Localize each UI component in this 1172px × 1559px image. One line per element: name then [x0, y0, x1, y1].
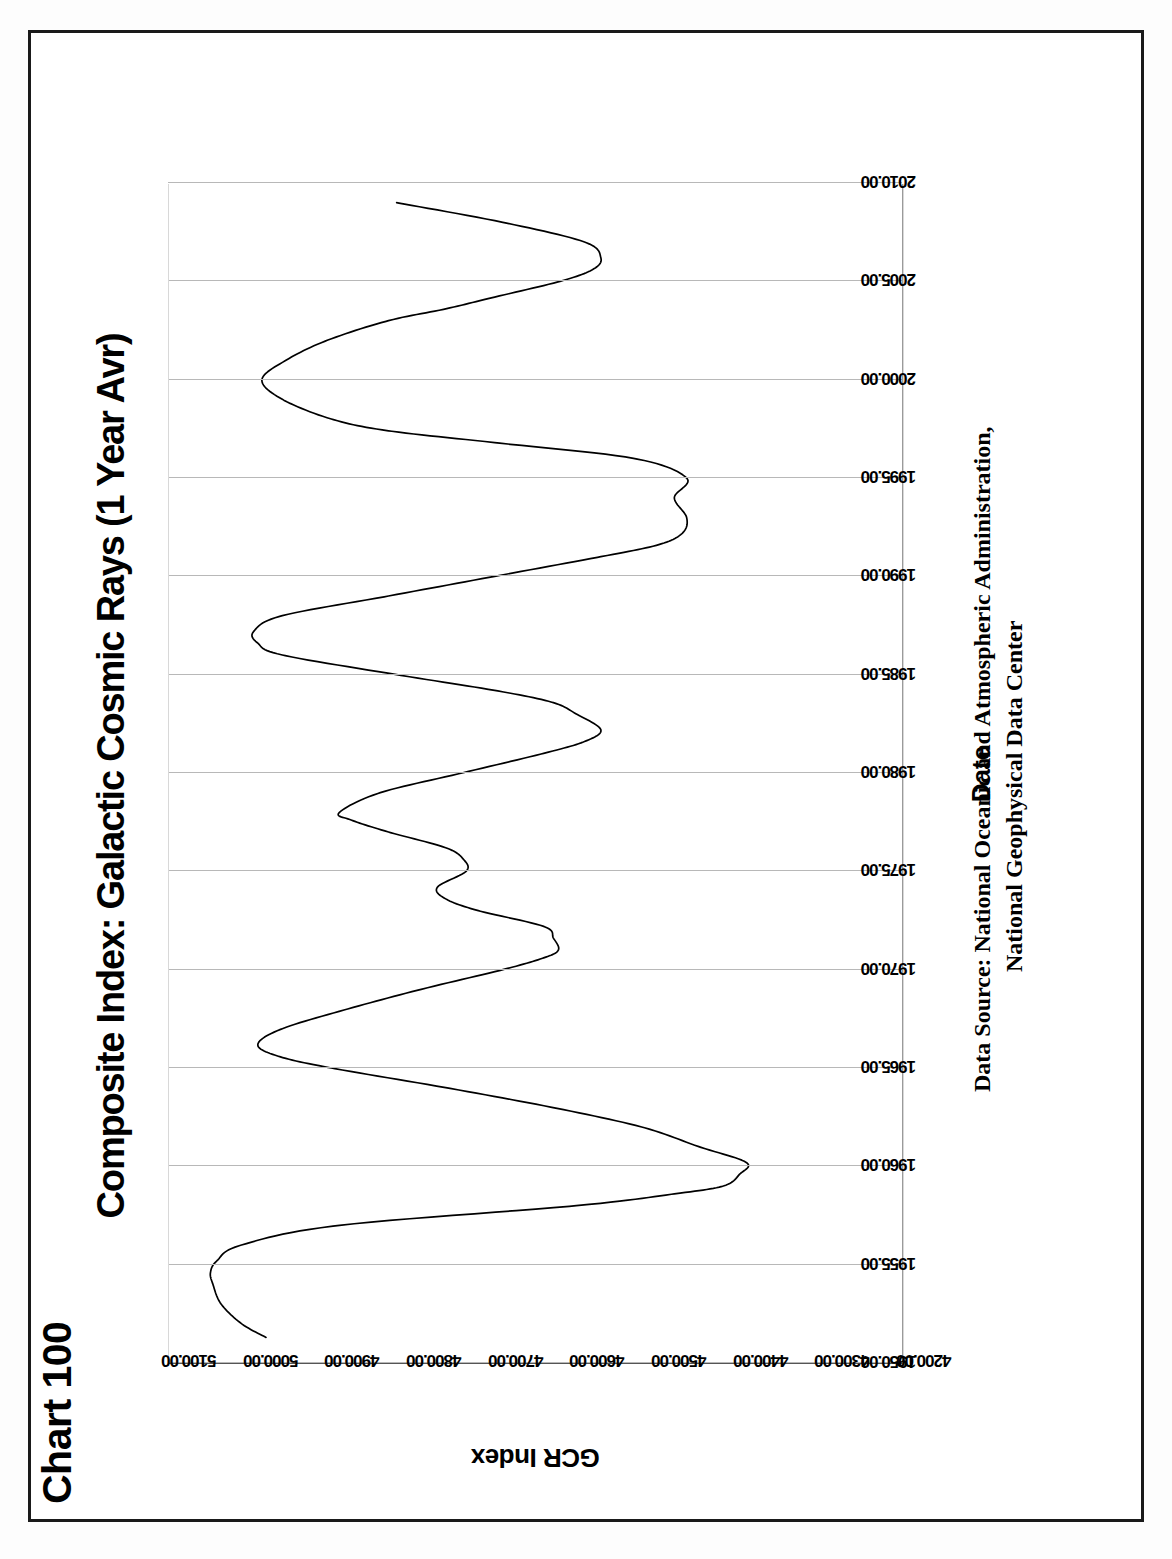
x-tick-label: 2000.00 — [862, 368, 916, 388]
data-source-note: Data Source: National Oceanic and Atmosp… — [966, 92, 1031, 1092]
x-gridline — [168, 674, 902, 675]
y-tick-label: 4400.00 — [734, 1350, 788, 1370]
y-tick-label: 4200.00 — [897, 1350, 951, 1370]
plot-area — [168, 184, 903, 1364]
data-source-line-2: National Geophysical Data Center — [998, 92, 1030, 1092]
x-tick-label: 1990.00 — [862, 564, 916, 584]
x-gridline — [168, 280, 902, 281]
x-gridline — [168, 870, 902, 871]
gcr-index-series-line — [210, 203, 748, 1338]
x-gridline — [168, 575, 902, 576]
x-tick-label: 1980.00 — [862, 761, 916, 781]
y-tick-label: 4300.00 — [815, 1350, 869, 1370]
x-gridline — [168, 969, 902, 970]
x-gridline — [168, 1264, 902, 1265]
y-gridline — [168, 184, 169, 1363]
y-axis-label-text: GCR Index — [471, 1442, 599, 1473]
y-tick-label: 4500.00 — [652, 1350, 706, 1370]
y-tick-label: 4800.00 — [407, 1350, 461, 1370]
x-gridline — [168, 1067, 902, 1068]
y-tick-label: 5100.00 — [162, 1350, 216, 1370]
x-tick-label: 1995.00 — [862, 466, 916, 486]
x-gridline — [168, 1165, 902, 1166]
x-tick-label: 1975.00 — [862, 859, 916, 879]
x-tick-label: 1965.00 — [862, 1056, 916, 1076]
y-tick-label: 4700.00 — [489, 1350, 543, 1370]
y-tick-label: 4600.00 — [570, 1350, 624, 1370]
x-gridline — [168, 379, 902, 380]
y-axis-label: GCR Index — [168, 1438, 903, 1478]
x-gridline — [168, 182, 902, 183]
chart-number-heading: Chart 100 — [34, 1322, 81, 1504]
x-gridline — [168, 772, 902, 773]
x-tick-label: 1970.00 — [862, 958, 916, 978]
y-tick-label: 4900.00 — [325, 1350, 379, 1370]
y-tick-label: 5000.00 — [244, 1350, 298, 1370]
rotated-chart-stage: Chart 100 Composite Index: Galactic Cosm… — [28, 30, 1144, 1522]
chart-figure: Chart 100 Composite Index: Galactic Cosm… — [28, 30, 1144, 1522]
data-line-chart — [168, 183, 903, 1363]
x-tick-label: 1955.00 — [862, 1253, 916, 1273]
x-tick-label: 1960.00 — [862, 1154, 916, 1174]
x-gridline — [168, 477, 902, 478]
data-source-line-1: Data Source: National Oceanic and Atmosp… — [969, 426, 995, 1092]
chart-title: Composite Index: Galactic Cosmic Rays (1… — [90, 30, 133, 1522]
x-tick-label: 2010.00 — [862, 171, 916, 191]
plot-area-wrapper: 1950.001955.001960.001965.001970.001975.… — [168, 184, 903, 1364]
x-tick-label: 2005.00 — [862, 269, 916, 289]
x-tick-label: 1985.00 — [862, 663, 916, 683]
